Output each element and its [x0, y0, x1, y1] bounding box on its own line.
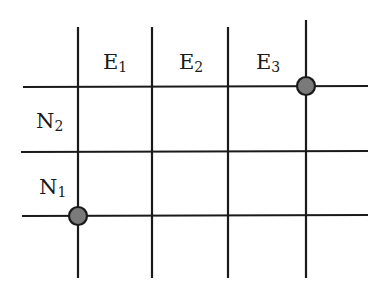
- column-label-e2: E2: [179, 50, 203, 75]
- bottom-left-point: [69, 207, 87, 225]
- row-label-n1: N1: [39, 175, 66, 200]
- horizontal-line-2: [21, 151, 368, 152]
- column-label-e1: E1: [103, 50, 127, 75]
- top-right-point: [297, 77, 315, 95]
- horizontal-line-1: [23, 86, 368, 87]
- row-label-n2: N2: [36, 109, 63, 134]
- column-label-e3: E3: [256, 50, 280, 75]
- grid-diagram: E1 E2 E3 N2 N1: [0, 0, 385, 295]
